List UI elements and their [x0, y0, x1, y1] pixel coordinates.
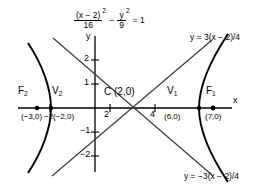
y-axis-label: y [86, 32, 91, 41]
center-label: C (2,0) [104, 87, 135, 97]
vertex-v1-label: V1 [167, 86, 177, 98]
equation-denominator-2: 9 [117, 21, 126, 30]
focus-f2-label: F2 [18, 86, 28, 98]
equation-title: (x − 2) 16 2 − y 9 2 = 1 [74, 11, 145, 30]
focus-f2-coords: (−3,0) [21, 113, 42, 121]
focus-f1-dot [211, 106, 216, 111]
vertex-v2-subscript: 2 [59, 90, 63, 97]
focus-f2-subscript: 2 [24, 90, 28, 97]
x-tick-label-minus2: −2 [44, 113, 53, 121]
vertex-v1-subscript: 1 [174, 90, 178, 97]
equation-exponent-1: 2 [102, 7, 106, 14]
vertex-v2-label: V2 [52, 86, 62, 98]
focus-f1-coords: (7,0) [205, 113, 221, 121]
equation-numerator-2: y [117, 11, 125, 20]
vertex-v1-dot [197, 106, 201, 110]
focus-f2-dot [35, 106, 39, 110]
equation-fraction-1: (x − 2) 16 [74, 11, 102, 30]
focus-f1-label: F1 [206, 86, 216, 98]
vertex-v1-symbol: V [167, 85, 174, 96]
equation-exponent-2: 2 [126, 7, 130, 14]
asymptote-lower-label: y = −3(x − 2)/4 [184, 172, 239, 181]
x-tick-label-2: 2 [104, 110, 109, 119]
y-tick-label-minus1: −1 [80, 126, 90, 135]
equation-operator: − [109, 15, 114, 25]
equation-denominator-1: 16 [81, 21, 94, 30]
y-tick-label-1: 1 [84, 78, 89, 87]
vertex-v2-dot [49, 106, 53, 110]
vertex-v1-coords: (6,0) [164, 113, 180, 121]
focus-f1-subscript: 1 [212, 90, 216, 97]
y-tick-label-2: 2 [84, 54, 89, 63]
equation-numerator-1: (x − 2) [74, 11, 102, 20]
equation-equals: = 1 [133, 15, 145, 25]
vertex-v2-coords: (−2,0) [53, 113, 74, 121]
y-tick-label-minus2: −2 [80, 150, 90, 159]
equation-fraction-2: y 9 [117, 11, 126, 30]
x-tick-label-4: 4 [150, 110, 155, 119]
asymptote-upper-label: y = 3(x − 2)/4 [190, 33, 240, 42]
hyperbola-figure: (x − 2) 16 2 − y 9 2 = 1 y x 2 4 2 1 −1 … [0, 0, 270, 194]
x-axis-label: x [233, 96, 238, 105]
vertex-v2-symbol: V [52, 85, 59, 96]
